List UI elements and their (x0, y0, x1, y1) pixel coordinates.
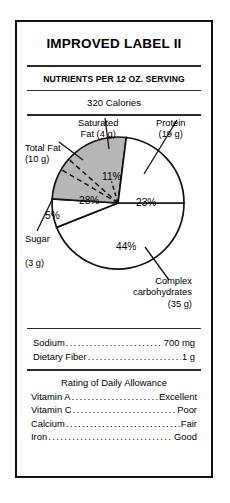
nutrient-value: 1 g (182, 350, 195, 364)
callout-protein-name: Protein (156, 118, 185, 128)
callout-sugar-grams: (3 g) (25, 258, 44, 270)
callout-protein-grams: (19 g) (159, 129, 183, 139)
callout-saturated-fat-grams: Fat (4 g) (81, 129, 116, 139)
nutrition-label-card: IMPROVED LABEL II NUTRIENTS PER 12 OZ. S… (15, 20, 213, 478)
table-row: Iron ...................................… (31, 430, 197, 444)
pie-percent-protein: 23% (136, 197, 156, 208)
rating-label: Iron (31, 430, 47, 444)
table-row: Dietary Fiber ..........................… (33, 350, 195, 364)
nutrient-value: 700 mg (164, 336, 195, 350)
callout-complex-carbs-grams: (35 g) (168, 299, 192, 309)
callout-saturated-fat: Saturated Fat (4 g) (78, 118, 118, 141)
rating-value: Fair (181, 417, 197, 431)
callout-protein: Protein (19 g) (156, 118, 185, 141)
callout-total-fat-name: Total Fat (25, 143, 61, 153)
table-row: Vitamin A ..............................… (31, 390, 197, 404)
leader-dots: ........................................… (71, 390, 158, 404)
table-row: Vitamin C ..............................… (31, 403, 197, 417)
callout-total-fat-grams: (10 g) (25, 154, 49, 164)
callout-saturated-fat-name: Saturated (78, 118, 118, 128)
calories-value: 320 Calories (17, 91, 211, 114)
table-row: Calcium ................................… (31, 417, 197, 431)
leader-dots: ........................................… (66, 336, 163, 350)
nutrient-pie-chart: Total Fat (10 g) Saturated Fat (4 g) Pro… (17, 116, 211, 328)
callout-sugar-name: Sugar (25, 234, 50, 246)
rating-list: Vitamin A ..............................… (17, 390, 211, 452)
leader-dots: ........................................… (48, 430, 173, 444)
callout-complex-carbs-name: Complex (155, 276, 192, 286)
rating-value: Good (174, 430, 197, 444)
callout-total-fat: Total Fat (10 g) (25, 143, 61, 166)
nutrient-label: Sodium (33, 336, 65, 350)
pie-percent-saturated-fat: 11% (102, 171, 122, 182)
nutrient-label: Dietary Fiber (33, 350, 87, 364)
pie-percent-complex-carbohydrates: 44% (116, 241, 136, 252)
pie-percent-total-fat: 28% (79, 195, 99, 206)
callout-complex-carbohydrates: Complex carbohydrates (35 g) (133, 276, 192, 311)
rating-label: Vitamin C (31, 403, 71, 417)
pie-percent-sugar: 5% (45, 210, 60, 221)
pie-slice-protein (118, 137, 184, 202)
rating-value: Excellent (159, 390, 197, 404)
callout-complex-carbs-name2: carbohydrates (133, 287, 192, 297)
rating-label: Vitamin A (31, 390, 70, 404)
rating-label: Calcium (31, 417, 65, 431)
rating-heading: Rating of Daily Allowance (17, 371, 211, 390)
leader-dots: ........................................… (88, 350, 181, 364)
leader-dots: ........................................… (66, 417, 180, 431)
page-title: IMPROVED LABEL II (17, 36, 211, 51)
rating-value: Poor (177, 403, 197, 417)
nutrient-list: Sodium .................................… (17, 329, 211, 369)
serving-subheading: NUTRIENTS PER 12 OZ. SERVING (17, 67, 211, 90)
table-row: Sodium .................................… (33, 336, 195, 350)
leader-dots: ........................................… (72, 403, 176, 417)
